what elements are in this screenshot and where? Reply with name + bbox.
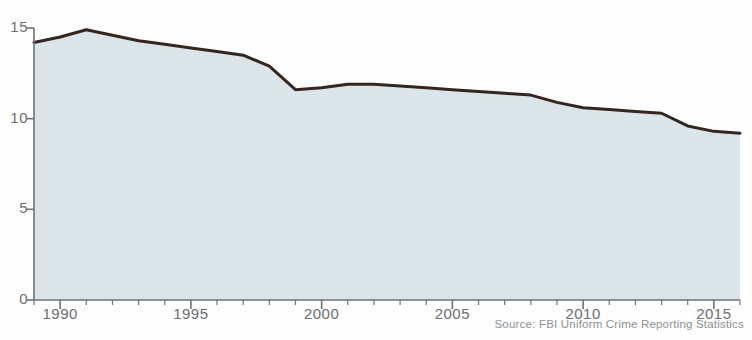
- x-axis-tick-label: 2005: [422, 305, 482, 322]
- y-axis-tick-label: 15: [0, 18, 28, 35]
- x-axis-tick-label: 2000: [292, 305, 352, 322]
- area-chart-plot: [0, 0, 752, 340]
- y-axis-tick-label: 10: [0, 109, 28, 126]
- source-note: Source: FBI Uniform Crime Reporting Stat…: [495, 318, 745, 330]
- area-fill-path: [34, 30, 740, 300]
- chart-container: 051015 199019952000200520102015 Source: …: [0, 0, 752, 340]
- x-tick-marks: [34, 300, 740, 309]
- x-axis-tick-label: 1995: [161, 305, 221, 322]
- y-axis-tick-label: 5: [0, 199, 28, 216]
- plot-group: [34, 30, 740, 300]
- x-axis-tick-label: 1990: [30, 305, 90, 322]
- y-axis-tick-label: 0: [0, 290, 28, 307]
- y-tick-marks: [27, 28, 34, 300]
